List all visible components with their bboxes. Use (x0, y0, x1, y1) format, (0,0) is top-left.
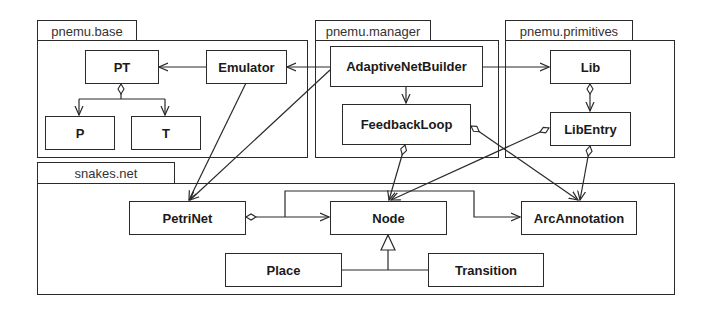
class-petri-net: PetriNet (129, 201, 246, 235)
class-node: Node (330, 201, 447, 235)
class-adaptive-net-builder: AdaptiveNetBuilder (330, 46, 483, 87)
class-emulator: Emulator (206, 50, 287, 84)
class-t: T (131, 116, 201, 150)
class-p: P (45, 116, 115, 150)
class-transition: Transition (428, 253, 544, 287)
class-lib: Lib (550, 50, 631, 84)
class-arc-annotation: ArcAnnotation (521, 201, 637, 235)
class-pt: PT (85, 50, 159, 84)
class-place: Place (225, 253, 342, 287)
class-lib-entry: LibEntry (550, 112, 631, 146)
class-feedback-loop: FeedbackLoop (342, 104, 471, 145)
